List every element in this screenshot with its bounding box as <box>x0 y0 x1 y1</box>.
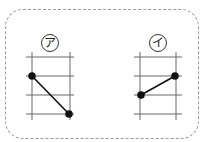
grid-a <box>26 52 74 120</box>
graphs <box>0 0 212 142</box>
graph-i <box>138 73 178 98</box>
